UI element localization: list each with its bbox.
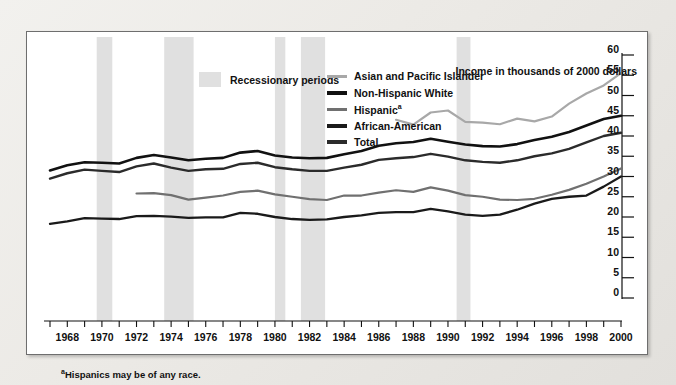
legend-swatch xyxy=(327,124,347,128)
legend-item: Non-Hispanic White xyxy=(327,85,484,102)
recession-legend: Recessionary periods xyxy=(199,72,339,87)
legend-swatch xyxy=(327,108,347,111)
recession-legend-label: Recessionary periods xyxy=(230,74,339,86)
y-axis-tick-label: 45 xyxy=(597,104,619,116)
legend-label: Non-Hispanic White xyxy=(354,88,453,99)
recession-legend-swatch xyxy=(199,72,221,87)
legend-swatch xyxy=(327,75,347,78)
y-axis-tick-label: 20 xyxy=(597,205,619,217)
legend-label: Total xyxy=(354,137,378,148)
y-axis-tick-label: 35 xyxy=(597,144,619,156)
x-axis-tick-label: 1990 xyxy=(431,331,465,343)
legend-swatch xyxy=(327,140,347,144)
figure-frame: Income in thousands of 2000 dollars Rece… xyxy=(0,0,676,385)
y-axis-tick-label: 10 xyxy=(597,246,619,258)
legend-item: Asian and Pacific Islander xyxy=(327,68,484,85)
recession-band xyxy=(164,37,193,321)
x-axis-tick-label: 1984 xyxy=(327,331,361,343)
x-axis-tick-label: 1982 xyxy=(293,331,327,343)
y-axis-tick-label: 60 xyxy=(597,43,619,55)
footnote-text: Hispanics may be of any race. xyxy=(65,369,201,380)
legend-label: Asian and Pacific Islander xyxy=(354,71,484,82)
y-axis-tick-label: 25 xyxy=(597,185,619,197)
y-axis-tick-label: 40 xyxy=(597,124,619,136)
x-axis-tick-label: 1974 xyxy=(154,331,188,343)
x-axis-tick-label: 2000 xyxy=(604,331,638,343)
x-axis-tick-label: 1992 xyxy=(466,331,500,343)
series-line xyxy=(50,177,621,224)
legend-item: Hispanica xyxy=(327,101,484,118)
legend-swatch xyxy=(327,91,347,95)
x-axis-tick-label: 1972 xyxy=(120,331,154,343)
series-line xyxy=(137,168,621,200)
legend-footnote-marker: a xyxy=(398,103,402,110)
legend-item: Total xyxy=(327,134,484,151)
x-axis-tick-label: 1994 xyxy=(500,331,534,343)
y-axis-tick-label: 15 xyxy=(597,225,619,237)
x-axis-tick-label: 1998 xyxy=(569,331,603,343)
x-axis-tick-label: 1986 xyxy=(362,331,396,343)
chart-panel: Income in thousands of 2000 dollars Rece… xyxy=(26,31,648,355)
y-axis-tick-label: 0 xyxy=(597,286,619,298)
x-axis-tick-label: 1996 xyxy=(535,331,569,343)
x-axis-tick-label: 1976 xyxy=(189,331,223,343)
x-axis-tick-label: 1988 xyxy=(396,331,430,343)
legend-item: African-American xyxy=(327,118,484,135)
footnote: aHispanics may be of any race. xyxy=(61,368,201,380)
legend-label: Hispanica xyxy=(354,103,402,115)
y-axis-tick-label: 5 xyxy=(597,266,619,278)
recession-band xyxy=(97,37,113,321)
legend-label: African-American xyxy=(354,121,442,132)
y-axis-tick-label: 50 xyxy=(597,84,619,96)
x-axis-tick-label: 1968 xyxy=(50,331,84,343)
y-axis-tick-label: 30 xyxy=(597,165,619,177)
x-axis-tick-label: 1970 xyxy=(85,331,119,343)
series-legend: Asian and Pacific IslanderNon-Hispanic W… xyxy=(327,68,484,151)
x-axis-tick-label: 1978 xyxy=(223,331,257,343)
x-axis-tick-label: 1980 xyxy=(258,331,292,343)
y-axis-tick-label: 55 xyxy=(597,63,619,75)
